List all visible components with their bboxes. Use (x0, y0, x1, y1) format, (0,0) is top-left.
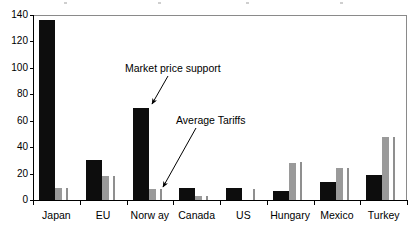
x-axis-label-4: US (220, 209, 267, 221)
y-tick-label-120: 120 (0, 36, 28, 46)
bar-market-price-support-4 (226, 188, 242, 200)
x-axis-label-1: EU (80, 209, 127, 221)
x-tick-mark-end (407, 201, 408, 205)
bar-market-price-support-3 (179, 188, 195, 200)
x-tick-mark-7 (360, 201, 361, 205)
bar-tariff-marker-0 (66, 188, 68, 200)
bar-market-price-support-6 (320, 182, 336, 201)
bar-average-tariffs-1 (102, 176, 109, 200)
annotation-market-price-support: Market price support (125, 62, 221, 74)
x-tick-mark-3 (173, 201, 174, 205)
bar-average-tariffs-3 (195, 196, 202, 200)
y-tick-label-40: 40 (0, 142, 28, 152)
x-tick-mark-2 (127, 201, 128, 205)
bar-average-tariffs-0 (55, 188, 62, 200)
x-axis-label-7: Turkey (360, 209, 407, 221)
y-tick-label-100: 100 (0, 63, 28, 73)
bar-tariff-marker-7 (393, 137, 395, 200)
y-tick-label-140: 140 (0, 10, 28, 20)
y-tick-mark-40 (30, 147, 34, 148)
bar-market-price-support-5 (273, 191, 289, 200)
bar-average-tariffs-7 (382, 137, 389, 200)
x-axis-label-0: Japan (33, 209, 80, 221)
y-tick-label-0: 0 (0, 195, 28, 205)
x-tick-mark-1 (80, 201, 81, 205)
x-axis-label-6: Mexico (314, 209, 361, 221)
bar-market-price-support-2 (133, 108, 149, 201)
bar-market-price-support-1 (86, 160, 102, 200)
x-tick-mark-0 (33, 201, 34, 205)
bar-tariff-marker-4 (253, 189, 255, 200)
bar-average-tariffs-5 (289, 163, 296, 200)
bar-average-tariffs-2 (149, 189, 156, 200)
x-axis-label-3: Canada (173, 209, 220, 221)
y-tick-label-20: 20 (0, 169, 28, 179)
bar-tariff-marker-6 (347, 168, 349, 200)
y-tick-mark-120 (30, 41, 34, 42)
y-tick-mark-100 (30, 68, 34, 69)
annotation-average-tariffs: Average Tariffs (176, 114, 245, 126)
x-tick-mark-6 (314, 201, 315, 205)
bar-market-price-support-0 (39, 20, 55, 200)
x-tick-mark-4 (220, 201, 221, 205)
y-tick-label-80: 80 (0, 89, 28, 99)
bar-tariff-marker-5 (300, 162, 302, 200)
y-tick-mark-140 (30, 15, 34, 16)
bar-tariff-marker-2 (160, 189, 162, 200)
x-axis-label-5: Hungary (267, 209, 314, 221)
x-tick-mark-5 (267, 201, 268, 205)
bar-market-price-support-7 (366, 175, 382, 200)
y-tick-mark-80 (30, 94, 34, 95)
x-axis-label-2: Norw ay (127, 209, 174, 221)
y-tick-mark-60 (30, 121, 34, 122)
y-tick-label-60: 60 (0, 116, 28, 126)
bar-average-tariffs-6 (336, 168, 343, 200)
bar-chart: 020406080100120140 JapanEUNorw ayCanadaU… (0, 0, 415, 239)
bar-tariff-marker-3 (206, 196, 208, 200)
y-tick-mark-20 (30, 174, 34, 175)
bar-tariff-marker-1 (113, 176, 115, 200)
cropped-title-artifact (0, 0, 415, 5)
